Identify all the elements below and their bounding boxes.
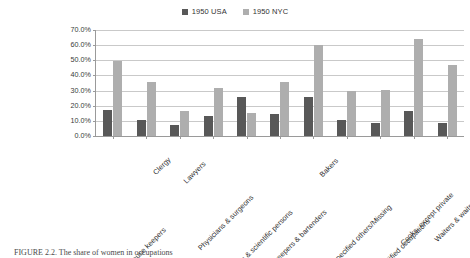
x-tick-mark bbox=[347, 136, 348, 139]
legend-entry-nyc: 1950 NYC bbox=[243, 7, 288, 16]
bar-nyc bbox=[414, 39, 423, 136]
bar-group bbox=[297, 30, 330, 136]
x-axis-label: Lawyers bbox=[182, 159, 208, 185]
y-tick-label: 20.0% bbox=[71, 102, 91, 109]
figure-caption: FIGURE 2.2. The share of women in occupa… bbox=[14, 248, 458, 258]
bar-usa bbox=[270, 114, 279, 136]
x-axis-label: Physicians & surgeons bbox=[196, 193, 255, 252]
legend-entry-usa: 1950 USA bbox=[182, 7, 227, 16]
y-tick-label: 50.0% bbox=[71, 57, 91, 64]
bar-chart-figure: 1950 USA 1950 NYC 0.0%10.0%20.0%30.0%40.… bbox=[0, 0, 470, 258]
x-tick-mark bbox=[113, 136, 114, 139]
bar-nyc bbox=[180, 111, 189, 136]
x-tick-mark bbox=[313, 136, 314, 139]
x-tick-mark bbox=[380, 136, 381, 139]
legend-swatch-usa bbox=[182, 9, 188, 15]
bar-usa bbox=[204, 116, 213, 136]
bar-group bbox=[163, 30, 196, 136]
y-tick-label: 70.0% bbox=[71, 26, 91, 33]
bar-group bbox=[129, 30, 162, 136]
bars-layer bbox=[96, 30, 464, 136]
x-tick-mark bbox=[213, 136, 214, 139]
bar-group bbox=[364, 30, 397, 136]
legend-label-usa: 1950 USA bbox=[192, 7, 227, 16]
bar-usa bbox=[438, 123, 447, 136]
bar-usa bbox=[237, 97, 246, 136]
bar-usa bbox=[137, 120, 146, 136]
bar-nyc bbox=[448, 65, 457, 136]
plot-area bbox=[95, 30, 464, 137]
bar-group bbox=[397, 30, 430, 136]
bar-nyc bbox=[113, 61, 122, 136]
y-tick-label: 0.0% bbox=[75, 132, 91, 139]
y-tick-label: 60.0% bbox=[71, 42, 91, 49]
x-axis-category-labels: Boarding and lodging-house keepersClergy… bbox=[95, 140, 463, 248]
bar-nyc bbox=[347, 91, 356, 136]
y-axis-tick-labels: 0.0%10.0%20.0%30.0%40.0%50.0%60.0%70.0% bbox=[47, 28, 93, 136]
bar-usa bbox=[371, 123, 380, 136]
x-tick-mark bbox=[247, 136, 248, 139]
x-tick-mark bbox=[180, 136, 181, 139]
bar-group bbox=[263, 30, 296, 136]
bar-group bbox=[230, 30, 263, 136]
bar-nyc bbox=[280, 82, 289, 136]
bar-group bbox=[330, 30, 363, 136]
bar-usa bbox=[404, 111, 413, 136]
bar-usa bbox=[337, 120, 346, 136]
bar-group bbox=[196, 30, 229, 136]
x-tick-mark bbox=[146, 136, 147, 139]
bar-group bbox=[431, 30, 464, 136]
y-tick-label: 10.0% bbox=[71, 117, 91, 124]
y-tick-label: 40.0% bbox=[71, 72, 91, 79]
y-tick-mark bbox=[93, 136, 96, 137]
bar-usa bbox=[304, 97, 313, 136]
legend-swatch-nyc bbox=[243, 9, 249, 15]
bar-group bbox=[96, 30, 129, 136]
x-axis-label: Cooks, except private bbox=[398, 190, 455, 247]
legend-label-nyc: 1950 NYC bbox=[253, 7, 288, 16]
x-tick-mark bbox=[280, 136, 281, 139]
x-axis-label: Clergy bbox=[151, 155, 172, 176]
bar-nyc bbox=[147, 82, 156, 137]
bar-nyc bbox=[247, 113, 256, 136]
x-tick-mark bbox=[414, 136, 415, 139]
x-tick-mark bbox=[447, 136, 448, 139]
bar-usa bbox=[103, 110, 112, 137]
x-axis-label: Bakers bbox=[318, 156, 341, 179]
plot-wrapper: 0.0%10.0%20.0%30.0%40.0%50.0%60.0%70.0% bbox=[0, 28, 470, 140]
bar-nyc bbox=[381, 90, 390, 136]
bar-nyc bbox=[214, 88, 223, 136]
y-tick-label: 30.0% bbox=[71, 87, 91, 94]
bar-nyc bbox=[314, 45, 323, 136]
chart-legend: 1950 USA 1950 NYC bbox=[0, 7, 470, 16]
bar-usa bbox=[170, 125, 179, 136]
